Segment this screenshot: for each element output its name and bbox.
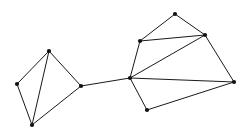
node-layer: [15, 12, 236, 127]
graph-edge-left-top-to-left-west: [17, 51, 49, 84]
edge-layer: [17, 14, 234, 125]
graph-edge-left-top-to-left-bridge: [49, 51, 81, 86]
graph-node-right-apex: [173, 12, 177, 16]
graph-edge-right-apex-to-right-upper-right: [175, 14, 205, 35]
graph-edge-hub-to-right-east: [130, 78, 234, 82]
graph-edge-right-upper-left-to-right-apex: [140, 14, 175, 41]
graph-edge-left-west-to-left-bottom: [17, 84, 32, 125]
graph-node-left-top: [47, 49, 51, 53]
graph-edge-right-bottom-to-right-east: [147, 82, 234, 110]
graph-canvas: [0, 0, 249, 137]
graph-node-left-bottom: [30, 123, 34, 127]
graph-edge-hub-to-right-bottom: [130, 78, 147, 110]
graph-edge-left-bridge-to-hub: [81, 78, 130, 86]
graph-node-left-west: [15, 82, 19, 86]
graph-node-right-upper-right: [203, 33, 207, 37]
graph-edge-hub-to-right-upper-left: [130, 41, 140, 78]
graph-node-right-bottom: [145, 108, 149, 112]
graph-node-right-east: [232, 80, 236, 84]
graph-figure: [0, 0, 249, 137]
graph-node-hub: [128, 76, 132, 80]
graph-edge-right-upper-right-to-right-east: [205, 35, 234, 82]
graph-node-right-upper-left: [138, 39, 142, 43]
graph-node-left-bridge: [79, 84, 83, 88]
